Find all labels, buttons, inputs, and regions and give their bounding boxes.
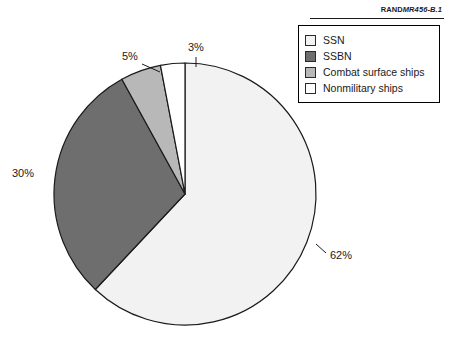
slice-label-combat-surface-ships: 5%: [122, 51, 138, 62]
slice-label-nonmilitary-ships: 3%: [188, 42, 204, 53]
legend-label-nonmilitary-ships: Nonmilitary ships: [323, 83, 403, 94]
legend-item-ssn: SSN: [305, 32, 432, 48]
slice-label-ssn: 62%: [330, 250, 352, 261]
pie-slice-group: [54, 63, 316, 325]
legend-label-ssbn: SSBN: [323, 51, 352, 62]
legend-item-ssbn: SSBN: [305, 48, 432, 64]
legend-label-ssn: SSN: [323, 35, 345, 46]
legend-swatch-combat-surface-ships: [305, 67, 316, 78]
legend-item-combat-surface-ships: Combat surface ships: [305, 64, 432, 80]
legend-swatch-ssbn: [305, 51, 316, 62]
slice-label-ssbn: 30%: [12, 168, 34, 179]
legend-item-nonmilitary-ships: Nonmilitary ships: [305, 80, 432, 96]
leader-line-62pct: [316, 244, 326, 253]
chart-legend: SSN SSBN Combat surface ships Nonmilitar…: [298, 25, 440, 103]
legend-swatch-nonmilitary-ships: [305, 83, 316, 94]
legend-swatch-ssn: [305, 35, 316, 46]
legend-label-combat-surface-ships: Combat surface ships: [323, 67, 425, 78]
